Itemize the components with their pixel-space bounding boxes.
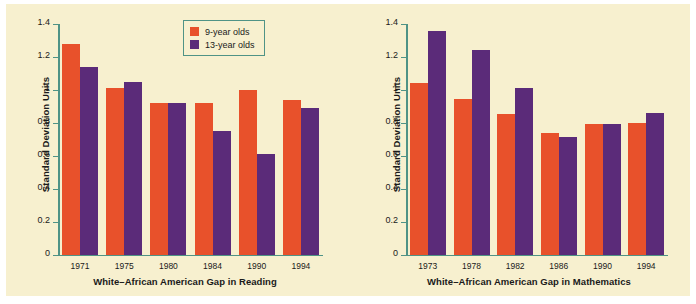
- y-axis-line: [58, 24, 60, 256]
- bar: [454, 99, 472, 255]
- bar: [628, 123, 646, 255]
- bar-group: 1990: [239, 24, 275, 255]
- y-tick-label: 0.4: [37, 182, 50, 192]
- y-tick-mark: [53, 189, 58, 190]
- y-tick-label: 1.4: [37, 17, 50, 27]
- chart-panel-reading: Standard Deviation Units 00.20.40.60.811…: [6, 4, 348, 296]
- y-tick-mark: [401, 189, 406, 190]
- x-tick-label: 1986: [541, 261, 577, 271]
- y-tick-label: 0.8: [37, 116, 50, 126]
- bar-group: 1994: [628, 24, 664, 255]
- chart-panel-mathematics: Standard Deviation Units 00.20.40.60.811…: [348, 4, 690, 296]
- y-tick-label: 1: [45, 83, 50, 93]
- y-tick-label: 0: [45, 248, 50, 258]
- legend-item-13-year-olds: 13-year olds: [190, 38, 255, 51]
- y-axis-line: [406, 24, 408, 256]
- y-tick-mark: [53, 90, 58, 91]
- bar-group: 1994: [283, 24, 319, 255]
- x-tick-label: 1975: [106, 261, 142, 271]
- legend: 9-year olds 13-year olds: [183, 20, 265, 56]
- bar: [124, 82, 142, 255]
- y-tick-label: 0.4: [385, 182, 398, 192]
- bar: [150, 103, 168, 254]
- y-axis-label-mathematics: Standard Deviation Units: [391, 45, 402, 225]
- y-tick-mark: [53, 57, 58, 58]
- bar: [106, 88, 124, 254]
- plot-area-mathematics: 00.20.40.60.811.21.419731978198219861990…: [406, 24, 668, 256]
- x-tick-label: 1990: [585, 261, 621, 271]
- x-axis-title-reading: White–African American Gap in Reading: [20, 276, 350, 287]
- y-tick-label: 1.4: [385, 17, 398, 27]
- legend-swatch-icon: [190, 40, 199, 49]
- x-tick-label: 1980: [150, 261, 186, 271]
- legend-swatch-icon: [190, 27, 199, 36]
- x-tick-label: 1994: [628, 261, 664, 271]
- x-axis-title-mathematics: White–African American Gap in Mathematic…: [364, 276, 694, 287]
- y-tick-label: 0.6: [385, 149, 398, 159]
- x-axis-line: [58, 255, 323, 257]
- y-tick-label: 1: [393, 83, 398, 93]
- y-tick-label: 0.2: [37, 215, 50, 225]
- bar: [559, 137, 577, 255]
- bar: [515, 88, 533, 254]
- y-tick-mark: [53, 123, 58, 124]
- y-tick-mark: [53, 156, 58, 157]
- bar: [168, 103, 186, 254]
- y-tick-mark: [401, 222, 406, 223]
- y-tick-label: 0.2: [385, 215, 398, 225]
- plot-area-reading: 00.20.40.60.811.21.419711975198019841990…: [58, 24, 323, 256]
- bar: [62, 44, 80, 255]
- bar-group: 1973: [410, 24, 446, 255]
- bar-group: 1975: [106, 24, 142, 255]
- y-tick-label: 0.8: [385, 116, 398, 126]
- y-axis-label-reading: Standard Deviation Units: [40, 45, 51, 225]
- bar: [646, 113, 664, 255]
- figure-root: Standard Deviation Units 00.20.40.60.811…: [0, 0, 696, 304]
- y-tick-mark: [53, 255, 58, 256]
- y-tick-mark: [401, 24, 406, 25]
- y-tick-label: 1.2: [37, 50, 50, 60]
- bar-group: 1984: [195, 24, 231, 255]
- bar: [213, 131, 231, 254]
- bar: [301, 108, 319, 255]
- bar: [541, 133, 559, 255]
- legend-item-9-year-olds: 9-year olds: [190, 25, 255, 38]
- bar-group: 1986: [541, 24, 577, 255]
- bar: [428, 31, 446, 254]
- bar-group: 1978: [454, 24, 490, 255]
- bar: [585, 124, 603, 255]
- x-tick-label: 1971: [62, 261, 98, 271]
- x-axis-line: [406, 255, 668, 257]
- y-tick-mark: [53, 24, 58, 25]
- bar-group: 1971: [62, 24, 98, 255]
- bar-group: 1982: [497, 24, 533, 255]
- bar: [410, 83, 428, 254]
- x-tick-label: 1990: [239, 261, 275, 271]
- y-tick-mark: [401, 123, 406, 124]
- y-tick-mark: [401, 156, 406, 157]
- bar: [80, 67, 98, 255]
- bar-group: 1980: [150, 24, 186, 255]
- bar: [257, 154, 275, 254]
- x-tick-label: 1994: [283, 261, 319, 271]
- bar: [239, 90, 257, 255]
- x-tick-label: 1978: [454, 261, 490, 271]
- y-tick-label: 1.2: [385, 50, 398, 60]
- x-tick-label: 1982: [497, 261, 533, 271]
- y-tick-mark: [401, 57, 406, 58]
- bar: [603, 124, 621, 255]
- y-tick-label: 0.6: [37, 149, 50, 159]
- x-tick-label: 1984: [195, 261, 231, 271]
- legend-label: 9-year olds: [205, 27, 250, 37]
- x-tick-label: 1973: [410, 261, 446, 271]
- bar: [497, 114, 515, 255]
- legend-label: 13-year olds: [205, 40, 255, 50]
- bar-group: 1990: [585, 24, 621, 255]
- y-tick-mark: [401, 90, 406, 91]
- figure-canvas: Standard Deviation Units 00.20.40.60.811…: [6, 4, 690, 296]
- y-tick-label: 0: [393, 248, 398, 258]
- y-tick-mark: [401, 255, 406, 256]
- bar: [195, 103, 213, 254]
- bar: [472, 50, 490, 255]
- y-tick-mark: [53, 222, 58, 223]
